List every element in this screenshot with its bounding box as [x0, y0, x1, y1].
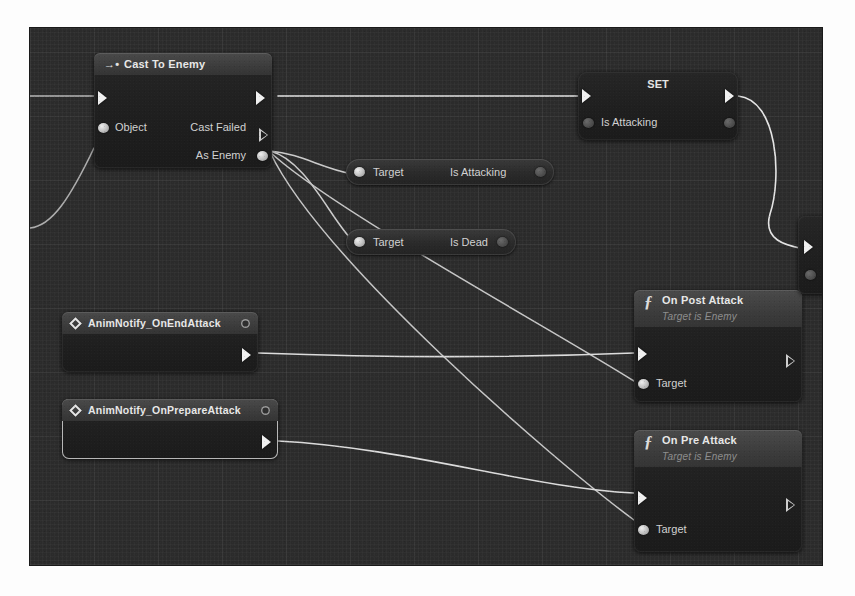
node-body: [62, 421, 278, 459]
exec-in-pin[interactable]: [98, 91, 107, 105]
node-header: ƒ On Post Attack Target is Enemy: [634, 290, 802, 327]
exec-out-pin[interactable]: [262, 435, 271, 449]
pin-object[interactable]: [98, 123, 109, 133]
pin-target[interactable]: [354, 237, 365, 247]
node-get-is-dead[interactable]: Target Is Dead: [346, 229, 516, 255]
wire-data-into-object: [30, 148, 94, 228]
pin-is-attacking-out[interactable]: [535, 167, 546, 177]
wire-set-exec-to-right: [738, 96, 804, 249]
pin-label-object: Object: [115, 121, 147, 133]
function-f-icon: ƒ: [644, 294, 653, 310]
exec-in-pin[interactable]: [582, 89, 591, 103]
node-set-is-attacking[interactable]: SET Is Attacking: [578, 72, 738, 140]
node-title: AnimNotify_OnPrepareAttack: [88, 399, 241, 421]
node-on-post-attack[interactable]: ƒ On Post Attack Target is Enemy Target: [634, 290, 802, 402]
event-options-icon[interactable]: [261, 406, 270, 415]
exec-in-pin[interactable]: [638, 347, 647, 361]
exec-out-pin-cast-failed[interactable]: [259, 128, 268, 142]
node-title: On Pre Attack: [662, 432, 737, 448]
cast-arrow-icon: →•: [104, 59, 119, 70]
node-subtitle: Target is Enemy: [662, 449, 737, 465]
pin-label-target: Target: [656, 377, 687, 389]
event-diamond-icon: [69, 404, 82, 417]
function-f-icon: ƒ: [644, 434, 653, 450]
wire-asenemy-to-getdead: [270, 151, 352, 240]
node-header: AnimNotify_OnEndAttack: [62, 312, 258, 334]
pin-label-is-dead: Is Dead: [450, 229, 488, 255]
pin-target[interactable]: [354, 167, 365, 177]
blueprint-graph-canvas[interactable]: →• Cast To Enemy Object Cast Failed As E…: [30, 28, 822, 565]
pin-label-target: Target: [373, 229, 404, 255]
pin-is-attacking-in[interactable]: [583, 118, 594, 128]
pin-label-target: Target: [656, 523, 687, 535]
node-header: ƒ On Pre Attack Target is Enemy: [634, 430, 802, 467]
screenshot-root: →• Cast To Enemy Object Cast Failed As E…: [0, 0, 855, 596]
exec-out-pin[interactable]: [786, 354, 795, 368]
wire-asenemy-to-postattack-target: [270, 152, 634, 381]
exec-out-pin[interactable]: [725, 89, 734, 103]
wire-prepareattack-to-preattack: [278, 441, 634, 493]
pin-data-in[interactable]: [805, 270, 816, 280]
pin-label-as-enemy: As Enemy: [196, 149, 246, 161]
node-body: Object Cast Failed As Enemy: [94, 75, 272, 168]
node-subtitle: Target is Enemy: [662, 309, 737, 325]
node-body: Target: [634, 327, 802, 405]
node-body: [798, 216, 822, 294]
node-title: Cast To Enemy: [124, 53, 205, 75]
event-options-icon[interactable]: [241, 319, 250, 328]
pin-is-attacking-out[interactable]: [724, 118, 735, 128]
pin-label-is-attacking: Is Attacking: [450, 159, 506, 185]
pin-label-target: Target: [373, 159, 404, 185]
node-title: SET: [578, 78, 738, 90]
node-body: Target: [634, 467, 802, 555]
pin-is-dead-out[interactable]: [497, 237, 508, 247]
exec-out-pin[interactable]: [256, 91, 265, 105]
node-title: On Post Attack: [662, 292, 743, 308]
wire-endattack-to-postattack: [258, 353, 634, 357]
node-title: AnimNotify_OnEndAttack: [88, 312, 221, 334]
node-body: SET Is Attacking: [578, 72, 738, 140]
node-body: [62, 334, 258, 372]
pin-target[interactable]: [638, 525, 649, 535]
wire-asenemy-to-getattacking: [270, 151, 352, 174]
exec-in-pin[interactable]: [638, 491, 647, 505]
pin-label-is-attacking: Is Attacking: [601, 116, 657, 128]
node-header: AnimNotify_OnPrepareAttack: [62, 399, 278, 421]
node-anim-notify-on-end-attack[interactable]: AnimNotify_OnEndAttack: [62, 312, 258, 372]
pin-as-enemy[interactable]: [257, 151, 268, 161]
exec-out-pin[interactable]: [786, 498, 795, 512]
pin-target[interactable]: [638, 379, 649, 389]
exec-in-pin[interactable]: [804, 240, 813, 254]
event-diamond-icon: [69, 317, 82, 330]
pin-label-cast-failed: Cast Failed: [190, 121, 246, 133]
node-header: →• Cast To Enemy: [94, 53, 272, 75]
node-clipped-right[interactable]: [798, 216, 822, 294]
node-cast-to-enemy[interactable]: →• Cast To Enemy Object Cast Failed As E…: [94, 53, 272, 168]
wire-asenemy-to-preattack-target: [270, 152, 634, 520]
exec-out-pin[interactable]: [242, 348, 251, 362]
node-on-pre-attack[interactable]: ƒ On Pre Attack Target is Enemy Target: [634, 430, 802, 552]
node-get-is-attacking[interactable]: Target Is Attacking: [346, 159, 554, 185]
node-anim-notify-on-prepare-attack[interactable]: AnimNotify_OnPrepareAttack: [62, 399, 278, 459]
